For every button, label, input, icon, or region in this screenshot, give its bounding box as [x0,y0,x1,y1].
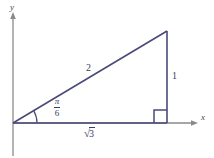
interior-angle-label: π 6 [49,97,65,118]
vertical-leg-length-label: 1 [172,71,177,81]
triangle-figure: y x 2 1 √3 π 6 [0,0,214,158]
fraction-numerator: π [54,97,61,106]
fraction-denominator: 6 [54,108,61,118]
horizontal-leg-length-label: √3 [84,128,95,139]
square-root-icon: √3 [84,128,95,139]
angle-arc [34,111,37,123]
y-axis-arrowhead [10,12,16,19]
x-axis-label: x [201,113,205,122]
fraction: π 6 [54,97,61,118]
radicand: 3 [89,127,95,139]
right-angle-marker-icon [154,110,167,123]
x-axis-arrowhead [191,120,198,126]
figure-canvas [0,0,214,158]
hypotenuse-length-label: 2 [86,63,91,73]
y-axis-label: y [10,3,14,12]
triangle-hypotenuse [13,31,167,123]
